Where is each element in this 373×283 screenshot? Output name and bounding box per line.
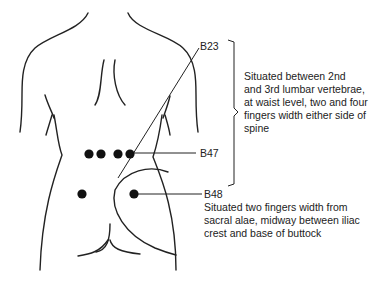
- left-scapula-line: [95, 60, 104, 105]
- point-b48-right: [129, 189, 138, 198]
- left-shoulder-outline: [20, 13, 88, 132]
- left-arm-inner-2: [46, 115, 52, 135]
- point-b47-right: [125, 149, 134, 158]
- right-shoulder-outline: [128, 13, 198, 132]
- left-torso-edge: [40, 115, 62, 270]
- b48-desc-line: sacral alae, midway between iliac: [204, 214, 360, 227]
- point-b23-right: [113, 149, 122, 158]
- b48-desc-line: crest and base of buttock: [204, 227, 321, 240]
- right-arm-inner-2: [165, 115, 170, 135]
- label-b23: B23: [200, 40, 219, 52]
- label-b48: B48: [204, 188, 223, 200]
- gluteal-cleft-right: [110, 240, 140, 254]
- label-b47: B47: [200, 147, 219, 159]
- right-scapula-line: [114, 60, 125, 105]
- left-arm-inner: [45, 95, 54, 118]
- b23-desc-line: and 3rd lumbar vertebrae,: [244, 83, 365, 96]
- point-b47-left-outer: [84, 149, 93, 158]
- b48-desc-line: Situated two fingers width from: [204, 201, 348, 214]
- b23-desc-line: at waist level, two and four: [244, 96, 368, 109]
- right-torso-edge: [153, 115, 176, 270]
- b23-desc-line: spine: [244, 122, 269, 135]
- point-b23-left: [96, 149, 105, 158]
- bracket: [228, 40, 238, 186]
- back-diagram: [0, 0, 373, 283]
- b23-desc-line: Situated between 2nd: [244, 70, 346, 83]
- point-b48-left: [77, 189, 86, 198]
- gluteal-cleft: [96, 224, 110, 252]
- b23-desc-line: fingers width either side of: [244, 109, 366, 122]
- b48-region-outline: [114, 169, 176, 255]
